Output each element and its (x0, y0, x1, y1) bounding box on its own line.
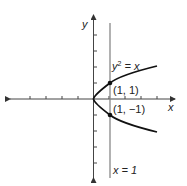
point-upper-label: (1, 1) (113, 84, 139, 96)
point-1-neg1 (108, 113, 113, 118)
point-lower-label: (1, −1) (113, 103, 145, 115)
x-axis-label: x (167, 101, 174, 113)
line-label: x = 1 (112, 164, 137, 176)
y-axis-label: y (81, 18, 89, 30)
graph: y x y2 = x (1, 1) (1, −1) x = 1 (0, 0, 187, 186)
point-1-1 (108, 81, 113, 86)
curve-label: y2 = x (111, 60, 140, 72)
